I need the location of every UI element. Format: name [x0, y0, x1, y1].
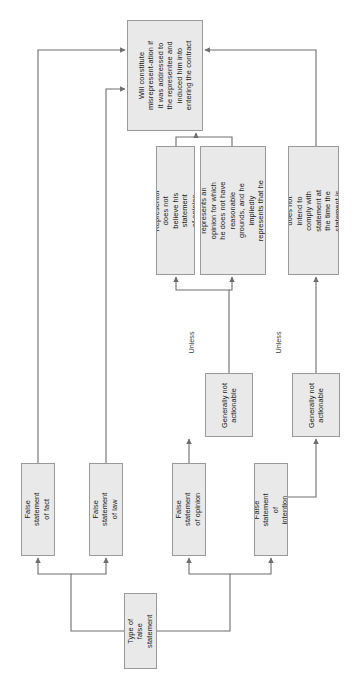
edge-law-to-constitute	[106, 89, 125, 463]
node-generally-not-actionable-opinion[interactable]: Generally not actionable	[205, 373, 253, 437]
node-label: Representor does not believe his stateme…	[156, 190, 195, 232]
edge-label-unless-opinion: Unless	[181, 338, 221, 348]
node-label: False statement of law	[92, 493, 120, 526]
node-label: False statement of opinion	[175, 493, 203, 526]
node-label: Type of false statement	[126, 614, 154, 647]
edge-unless-to-not-believe	[176, 277, 229, 347]
node-label: Representor represents an opinion for wh…	[200, 179, 266, 243]
node-will-constitute-misrepresentation[interactable]: Will constitute misrepresent-ation if it…	[127, 20, 203, 131]
node-label: False statement of fact	[24, 493, 52, 526]
node-label: Representor does not intend to comply wi…	[288, 186, 339, 235]
node-representor-no-reasonable-grounds[interactable]: Representor represents an opinion for wh…	[200, 146, 266, 275]
edge-type-to-intention	[230, 558, 271, 574]
edge-label-text: Unless	[187, 332, 196, 354]
edge-nogrounds-to-constitute	[196, 137, 232, 146]
edge-type-to-opinion	[157, 558, 230, 631]
node-generally-not-actionable-intention[interactable]: Generally not actionable	[292, 373, 340, 437]
node-label: Generally not actionable	[307, 382, 326, 428]
node-representor-does-not-intend-to-comply[interactable]: Representor does not intend to comply wi…	[288, 146, 339, 275]
edge-label-unless-intention: Unless	[268, 338, 308, 348]
node-label: Generally not actionable	[220, 382, 239, 428]
edge-type-to-fact	[38, 558, 124, 631]
edge-notbelieve-to-constitute	[176, 133, 196, 146]
node-false-statement-of-opinion[interactable]: False statement of opinion	[172, 463, 206, 556]
edge-label-text: Unless	[274, 332, 283, 354]
edge-unless-to-no-grounds	[229, 277, 232, 290]
node-label: Will constitute misrepresent-ation if it…	[137, 39, 194, 113]
edge-nointent-to-constitute	[205, 50, 316, 146]
node-label: False statement of intention	[254, 493, 288, 526]
node-representor-does-not-believe[interactable]: Representor does not believe his stateme…	[156, 146, 195, 275]
node-false-statement-of-fact[interactable]: False statement of fact	[21, 463, 55, 556]
diagram-canvas: Will constitute misrepresent-ation if it…	[0, 0, 359, 682]
node-false-statement-of-intention[interactable]: False statement of intention	[254, 463, 288, 556]
node-false-statement-of-law[interactable]: False statement of law	[89, 463, 123, 556]
edge-fact-to-constitute	[38, 50, 125, 463]
edge-type-to-law	[71, 558, 106, 574]
node-type-of-false-statement[interactable]: Type of false statement	[124, 593, 157, 669]
